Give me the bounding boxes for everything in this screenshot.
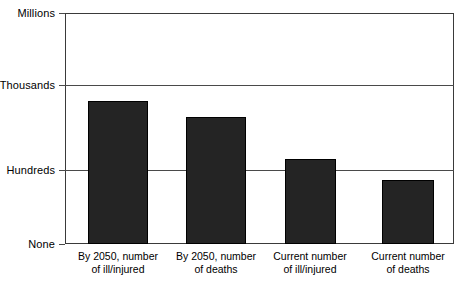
category-label-line1: Current number bbox=[330, 250, 464, 263]
ytick-hundreds bbox=[59, 170, 65, 171]
bar-by-2050-ill-injured bbox=[88, 101, 148, 244]
ytick-label-thousands: Thousands bbox=[0, 79, 55, 91]
category-label-line2: of deaths bbox=[330, 263, 464, 276]
bar-current-ill-injured bbox=[285, 159, 336, 244]
bar-current-deaths bbox=[382, 180, 434, 244]
category-label-current-deaths: Current number of deaths bbox=[330, 250, 464, 276]
ytick-thousands bbox=[59, 85, 65, 86]
bar-by-2050-deaths bbox=[186, 117, 246, 244]
ytick-label-none: None bbox=[28, 238, 55, 250]
ytick-label-millions: Millions bbox=[18, 7, 55, 19]
bar-chart: Millions Thousands Hundreds None By 2050… bbox=[0, 0, 464, 289]
ytick-millions bbox=[59, 13, 65, 14]
gridline-thousands bbox=[65, 85, 454, 86]
ytick-none bbox=[59, 244, 65, 245]
ytick-label-hundreds: Hundreds bbox=[7, 164, 56, 176]
